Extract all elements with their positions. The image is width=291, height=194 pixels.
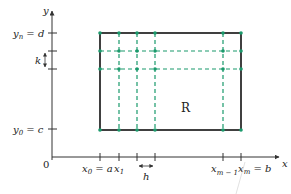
grid-point [153, 31, 157, 35]
y-axis-label: y [42, 5, 49, 16]
h-step-label: h [143, 171, 149, 182]
grid-point [135, 128, 139, 132]
grid-point [117, 128, 121, 132]
grid-point [221, 49, 225, 53]
grid-point [98, 31, 102, 35]
grid-point [239, 31, 243, 35]
grid-point [117, 67, 121, 71]
grid-point [135, 31, 139, 35]
grid-point [135, 49, 139, 53]
y-tick-label-yn: yn = d [12, 28, 44, 41]
grid-point [117, 31, 121, 35]
grid-point [98, 49, 102, 53]
grid-point [221, 128, 225, 132]
grid-point [221, 31, 225, 35]
x-axis-label: x [282, 158, 288, 169]
grid-point [98, 128, 102, 132]
region-r-boundary [100, 33, 241, 130]
grid-point [153, 67, 157, 71]
grid-point [239, 67, 243, 71]
grid-dashed-lines [100, 33, 241, 130]
grid-point [135, 67, 139, 71]
region-label: R [181, 101, 191, 115]
x-tick-label-x1: x1 [114, 163, 124, 176]
grid-point [117, 49, 121, 53]
x-tick-label-x0: x0 = a [82, 163, 113, 176]
k-step-label: k [35, 55, 41, 66]
grid-point [153, 128, 157, 132]
grid-point [153, 49, 157, 53]
grid-point [239, 128, 243, 132]
grid-point [98, 67, 102, 71]
y-tick-label-y0: y0 = c [12, 124, 44, 137]
grid-diagram: y x 0 yn = d y0 = c k x0 = a x1 xm − 1 x… [0, 0, 291, 194]
grid-point [221, 67, 225, 71]
grid-points [98, 31, 243, 132]
grid-point [239, 49, 243, 53]
x-tick-label-xm1: xm − 1 [211, 163, 238, 177]
origin-label: 0 [43, 159, 49, 170]
